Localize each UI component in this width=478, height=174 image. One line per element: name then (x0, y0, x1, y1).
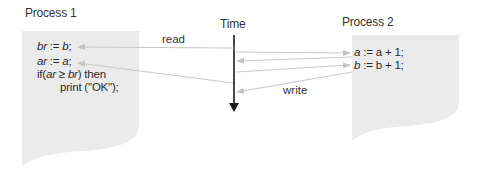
time-axis-arrowhead-icon (229, 103, 239, 112)
process1-title: Process 1 (25, 6, 77, 20)
read-label: read (162, 33, 185, 45)
process1-line-br: br := b; (37, 40, 72, 53)
if-keyword: if( (37, 68, 46, 80)
process1-line-ar: ar := a; (37, 55, 72, 68)
arrow-to-process2-a (236, 52, 350, 53)
var-br: br (68, 68, 78, 80)
process2-line-b: b := b + 1; (354, 59, 404, 72)
process2-line-a: a := a + 1; (354, 46, 404, 59)
var-ar: ar (46, 68, 56, 80)
write-label: write (283, 84, 307, 96)
var-br: br (37, 40, 47, 52)
assign-op: := (47, 40, 63, 52)
expr-b-plus-1: b + 1; (376, 59, 404, 71)
time-axis-label: Time (220, 17, 245, 31)
then-keyword: ) then (78, 68, 106, 80)
assign-op: := (360, 46, 376, 58)
process2-title: Process 2 (342, 15, 394, 29)
expr-a-plus-1: a + 1; (376, 46, 404, 58)
print-statement: print ("OK"); (60, 81, 119, 93)
arrow-to-process2-b (236, 65, 350, 72)
process1-line-if: if(ar ≥ br) then (37, 68, 106, 81)
var-ar: ar (37, 55, 47, 67)
geq-op: ≥ (56, 68, 68, 80)
semicolon: ; (69, 40, 72, 52)
semicolon: ; (69, 55, 72, 67)
process1-line-print: print ("OK"); (60, 81, 119, 94)
assign-op: := (360, 59, 376, 71)
concurrency-diagram: Process 1 Time Process 2 br := b; ar := … (0, 0, 478, 174)
arrow-from-process2-a (237, 57, 352, 61)
assign-op: := (47, 55, 63, 67)
